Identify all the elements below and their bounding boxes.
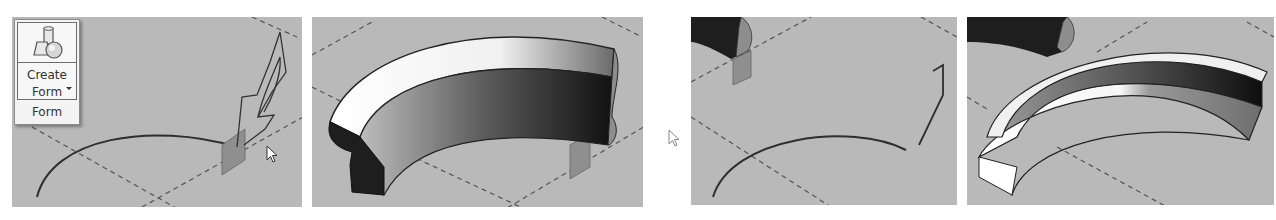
viewport-step-4[interactable] bbox=[967, 17, 1274, 205]
create-form-icon bbox=[30, 25, 66, 61]
ribbon-form-panel: Create Form Form bbox=[14, 19, 80, 125]
arrow-cursor-icon bbox=[266, 145, 280, 165]
rectangular-sweep-drawing bbox=[967, 17, 1274, 205]
swept-form-drawing bbox=[312, 17, 643, 207]
button-divider bbox=[18, 62, 76, 63]
arrow-cursor-outline-icon bbox=[668, 129, 682, 149]
chevron-down-icon[interactable] bbox=[66, 87, 72, 90]
viewport-step-2[interactable] bbox=[312, 17, 643, 207]
second-path-drawing bbox=[691, 17, 957, 205]
ribbon-panel-label: Form bbox=[15, 104, 79, 120]
create-form-button[interactable]: Create Form bbox=[17, 22, 77, 100]
create-form-label-line1: Create bbox=[18, 67, 76, 83]
viewport-step-3[interactable] bbox=[691, 17, 957, 205]
